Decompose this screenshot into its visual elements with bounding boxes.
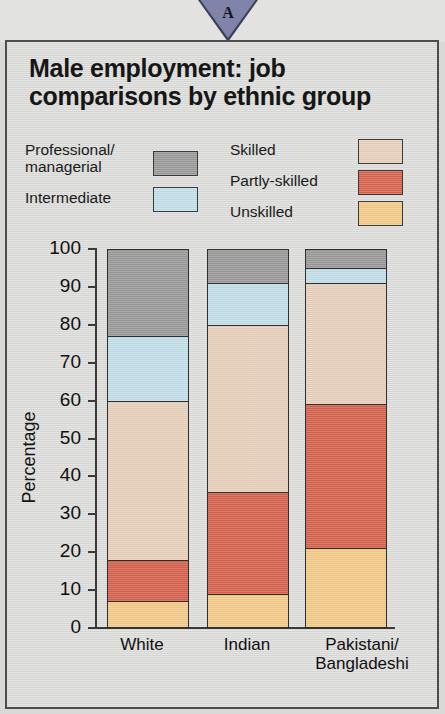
- bar-segment: [207, 283, 289, 325]
- y-tick-100: [88, 248, 97, 250]
- bar-segment: [207, 249, 289, 283]
- y-tick-50: [88, 438, 97, 440]
- category-label-indian: Indian: [192, 636, 302, 655]
- legend-swatch-partly-skilled: [358, 170, 403, 195]
- bar-segment: [305, 548, 387, 628]
- y-tick-label-80: 80: [33, 313, 81, 335]
- y-tick-label-0: 0: [33, 616, 81, 638]
- bar-segment: [207, 492, 289, 594]
- bar-segment: [107, 401, 189, 560]
- bar-segment: [107, 560, 189, 602]
- bar-segment: [107, 336, 189, 400]
- plot-area: Percentage 0102030405060708090100 White …: [7, 202, 441, 707]
- category-label-pakistani-bangladeshi: Pakistani/Bangladeshi: [292, 636, 432, 673]
- bar-segment: [305, 249, 387, 268]
- legend-label-skilled: Skilled: [230, 142, 350, 159]
- y-tick-70: [88, 362, 97, 364]
- y-tick-label-40: 40: [33, 464, 81, 486]
- legend-item-partly-skilled: Partly-skilled: [230, 173, 350, 190]
- chart-panel: Male employment: job comparisons by ethn…: [5, 40, 439, 709]
- bar-segment: [107, 249, 189, 336]
- y-tick-label-100: 100: [33, 237, 81, 259]
- bar-column-1: [207, 249, 289, 628]
- bar-segment: [207, 325, 289, 492]
- y-tick-label-20: 20: [33, 540, 81, 562]
- y-tick-30: [88, 513, 97, 515]
- marker-band: A: [0, 0, 445, 42]
- y-tick-90: [88, 286, 97, 288]
- legend-swatch-skilled: [358, 139, 403, 164]
- y-tick-label-10: 10: [33, 578, 81, 600]
- y-tick-label-50: 50: [33, 427, 81, 449]
- legend-swatch-professional: [153, 151, 198, 176]
- y-tick-80: [88, 324, 97, 326]
- y-tick-10: [88, 589, 97, 591]
- legend-label-partly-skilled: Partly-skilled: [230, 173, 350, 190]
- y-tick-label-60: 60: [33, 389, 81, 411]
- bar-segment: [305, 268, 387, 283]
- y-tick-40: [88, 475, 97, 477]
- y-tick-60: [88, 400, 97, 402]
- y-tick-label-30: 30: [33, 502, 81, 524]
- bar-column-0: [107, 249, 189, 628]
- marker-letter: A: [198, 4, 258, 22]
- legend-item-professional: Professional/managerial: [25, 142, 145, 175]
- y-tick-20: [88, 551, 97, 553]
- bar-segment: [305, 404, 387, 548]
- bar-segment: [207, 594, 289, 628]
- y-tick-0: [88, 627, 97, 629]
- bar-group: [97, 249, 397, 628]
- bar-segment: [107, 601, 189, 628]
- bar-segment: [305, 283, 387, 404]
- legend-label-professional: Professional/managerial: [25, 142, 145, 175]
- y-tick-label-90: 90: [33, 275, 81, 297]
- category-label-white: White: [87, 636, 197, 655]
- page-title: Male employment: job comparisons by ethn…: [29, 54, 429, 110]
- legend-item-skilled: Skilled: [230, 142, 350, 159]
- y-tick-label-70: 70: [33, 351, 81, 373]
- bar-column-2: [305, 249, 387, 628]
- triangle-down-icon: A: [198, 0, 258, 42]
